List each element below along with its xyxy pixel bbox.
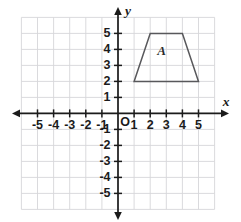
x-tick-label: 5	[195, 118, 202, 132]
y-tick-label: 3	[104, 58, 111, 72]
y-tick-label: 1	[104, 90, 111, 104]
y-tick-label: 5	[104, 26, 111, 40]
coordinate-plane-svg: -5 -4 -3 -2 -1 1 2 3 4 5 5 4 3 2 1 -1 -2…	[0, 0, 241, 222]
y-tick-label: 2	[104, 74, 111, 88]
y-tick-label: -2	[99, 138, 110, 152]
trapezoid-a-label: A	[156, 43, 166, 58]
x-tick-label: -4	[48, 118, 59, 132]
x-tick-label: 4	[179, 118, 186, 132]
x-tick-label: 3	[163, 118, 170, 132]
y-tick-label: -1	[99, 122, 110, 136]
x-tick-label: -5	[32, 118, 43, 132]
y-tick-label: -3	[99, 154, 110, 168]
y-tick-label: -5	[99, 186, 110, 200]
x-tick-label: 1	[131, 118, 138, 132]
y-tick-label: 4	[104, 42, 111, 56]
y-tick-label: -4	[99, 170, 110, 184]
x-tick-label: 2	[147, 118, 154, 132]
x-tick-label: -2	[80, 118, 91, 132]
x-axis-label: x	[222, 94, 230, 109]
x-tick-label: -3	[64, 118, 75, 132]
origin-label: O	[120, 115, 130, 129]
coordinate-plane-figure: -5 -4 -3 -2 -1 1 2 3 4 5 5 4 3 2 1 -1 -2…	[0, 0, 241, 222]
y-axis-label: y	[123, 3, 132, 18]
